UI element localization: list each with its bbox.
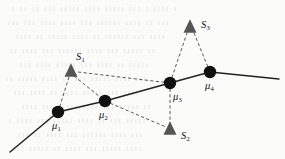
trajectory-polyline-group <box>10 72 279 152</box>
dashed-edges-group <box>58 33 210 127</box>
label-mu1: μ1 <box>52 121 61 132</box>
trajectory-polyline <box>10 72 279 152</box>
label-mu1-base: μ <box>52 120 57 131</box>
label-mu3-base: μ <box>173 91 178 102</box>
figure-container: ı ıııı ı ııı ııııı ıııı ııııı ııı ıı ıı … <box>0 0 285 159</box>
label-s3-base: S <box>201 19 206 30</box>
edge-s1-mu3 <box>78 72 170 83</box>
label-mu2-base: μ <box>99 109 104 120</box>
label-s2-base: S <box>181 130 186 141</box>
label-mu2-subscript: 2 <box>105 114 108 121</box>
marker-triangle-s3[interactable] <box>184 19 197 32</box>
marker-triangle-s2[interactable] <box>164 121 177 135</box>
label-s3-subscript: 3 <box>207 24 210 31</box>
label-mu4-base: μ <box>205 80 210 91</box>
label-mu3-subscript: 3 <box>179 96 182 103</box>
edge-mu3-s3 <box>170 33 187 83</box>
label-mu2: μ2 <box>99 110 108 121</box>
label-mu4: μ4 <box>205 81 214 92</box>
marker-circle-mu2[interactable] <box>99 95 111 107</box>
label-s1-subscript: 1 <box>82 56 85 63</box>
marker-circle-mu4[interactable] <box>204 66 216 78</box>
diagram-canvas <box>0 0 285 159</box>
label-mu3: μ3 <box>173 92 182 103</box>
label-mu4-subscript: 4 <box>211 85 214 92</box>
marker-circle-mu3[interactable] <box>164 77 176 89</box>
label-s1-base: S <box>76 51 81 62</box>
edge-mu2-s2 <box>105 101 166 127</box>
marker-circle-mu1[interactable] <box>52 106 64 118</box>
label-s2: S2 <box>181 131 190 142</box>
label-s3: S3 <box>201 20 210 31</box>
edge-mu4-s3 <box>194 33 210 72</box>
marker-triangle-s1[interactable] <box>65 63 78 77</box>
label-mu1-subscript: 1 <box>58 125 61 132</box>
label-s2-subscript: 2 <box>187 135 190 142</box>
label-s1: S1 <box>76 52 85 63</box>
